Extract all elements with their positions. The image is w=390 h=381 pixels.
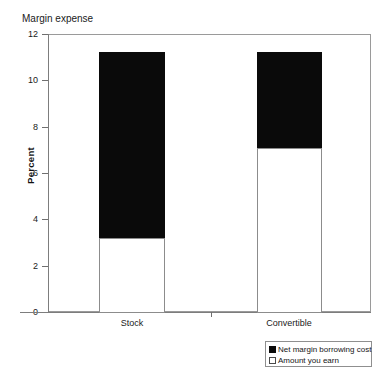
legend-item-net-margin-borrowing-cost: Net margin borrowing cost (269, 344, 371, 355)
y-axis-title: Percent (25, 126, 36, 206)
y-tick-label-10: 10 (8, 76, 38, 85)
y-tick-label-6: 6 (8, 169, 38, 178)
bar-stock (99, 52, 165, 313)
y-tick-12 (42, 34, 48, 35)
bar-stock-segment-net-margin-borrowing-cost (99, 52, 165, 238)
bar-convertible-segment-net-margin-borrowing-cost (257, 52, 322, 148)
y-tick-label-4: 4 (8, 215, 38, 224)
y-tick-4 (42, 219, 48, 220)
y-tick-label-8: 8 (8, 123, 38, 132)
bar-stock-segment-amount-you-earn (99, 238, 165, 313)
chart-legend: Net margin borrowing cost Amount you ear… (265, 341, 372, 367)
x-tick-label-convertible: Convertible (229, 318, 349, 329)
plot-area (48, 34, 371, 312)
bar-convertible (257, 52, 322, 313)
y-tick-10 (42, 80, 48, 81)
filled-square-icon (269, 346, 276, 353)
bar-convertible-segment-amount-you-earn (257, 148, 322, 313)
y-tick-6 (42, 173, 48, 174)
y-tick-label-2: 2 (8, 262, 38, 271)
x-tick-center (211, 312, 212, 317)
legend-label-net-margin-borrowing-cost: Net margin borrowing cost (278, 345, 371, 354)
y-tick-2 (42, 266, 48, 267)
legend-label-amount-you-earn: Amount you earn (278, 356, 339, 365)
y-axis-line (48, 34, 49, 313)
y-tick-label-12: 12 (8, 30, 38, 39)
outline-square-icon (269, 357, 276, 364)
legend-item-amount-you-earn: Amount you earn (269, 355, 371, 366)
margin-expense-chart: Margin expense Percent 12 10 8 6 4 2 0 S… (0, 0, 390, 381)
chart-title: Margin expense (22, 13, 93, 25)
y-tick-8 (42, 127, 48, 128)
x-tick-label-stock: Stock (72, 318, 192, 329)
